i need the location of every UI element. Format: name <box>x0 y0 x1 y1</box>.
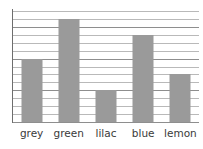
tick-label-lemon: lemon <box>162 126 199 140</box>
tick-label-blue: blue <box>125 126 162 140</box>
bar-lemon <box>170 74 191 122</box>
bar-chart-screenshot: grey green lilac blue lemon <box>0 0 203 149</box>
tick-label-lilac: lilac <box>87 126 124 140</box>
bar-slot-green <box>50 11 87 122</box>
bar-blue <box>133 35 154 122</box>
bar-green <box>58 19 79 122</box>
bar-grey <box>21 59 42 122</box>
x-axis-tick-labels: grey green lilac blue lemon <box>13 126 199 144</box>
bar-slot-grey <box>13 11 50 122</box>
bar-series <box>13 11 199 122</box>
tick-label-green: green <box>50 126 87 140</box>
bar-lilac <box>95 90 116 122</box>
bar-slot-blue <box>125 11 162 122</box>
x-axis-line <box>13 122 199 123</box>
bar-slot-lemon <box>162 11 199 122</box>
tick-label-grey: grey <box>13 126 50 140</box>
bar-slot-lilac <box>87 11 124 122</box>
